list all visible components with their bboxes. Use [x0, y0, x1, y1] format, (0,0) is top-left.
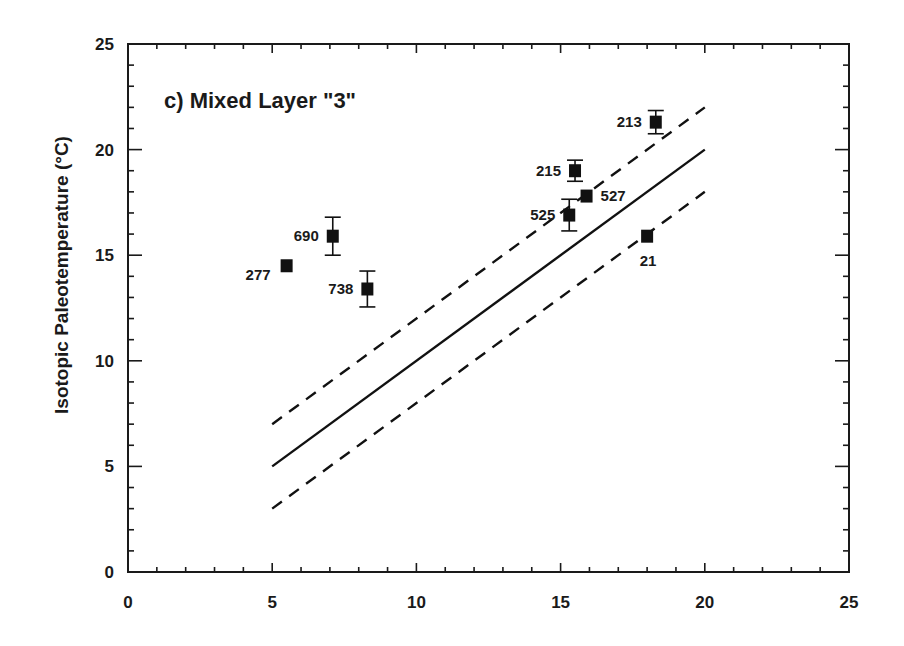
y-tick-label: 20 [95, 141, 114, 160]
y-tick-label: 10 [95, 352, 114, 371]
x-tick-label: 20 [695, 593, 714, 612]
square-marker [641, 230, 653, 243]
y-tick-label: 0 [105, 563, 114, 582]
one-to-one-line [272, 150, 705, 467]
y-axis-title: Isotopic Paleotemperature (°C) [51, 136, 72, 414]
data-point-738: 738 [328, 271, 375, 307]
x-tick-label: 0 [123, 593, 132, 612]
square-marker [569, 164, 581, 177]
data-point-21: 21 [640, 230, 657, 269]
data-point-215: 215 [536, 160, 583, 181]
data-point-277: 277 [246, 259, 293, 283]
data-point-213: 213 [617, 111, 664, 134]
x-tick-label: 15 [551, 593, 570, 612]
square-marker [650, 116, 662, 129]
data-point-690: 690 [294, 217, 341, 255]
point-label: 525 [530, 206, 555, 223]
x-tick-label: 5 [267, 593, 276, 612]
data-point-527: 527 [581, 187, 626, 204]
square-marker [281, 259, 293, 272]
point-label: 738 [328, 280, 353, 297]
point-label: 21 [640, 252, 657, 269]
x-tick-label: 25 [840, 593, 859, 612]
point-label: 215 [536, 162, 561, 179]
point-label: 690 [294, 227, 319, 244]
y-tick-label: 25 [95, 35, 114, 54]
x-tick-label: 10 [407, 593, 426, 612]
reference-lines [272, 107, 705, 508]
point-label: 277 [246, 266, 271, 283]
panel-title: c) Mixed Layer "3" [164, 88, 356, 113]
square-marker [361, 282, 373, 295]
square-marker [581, 190, 593, 203]
square-marker [327, 230, 339, 243]
square-marker [563, 209, 575, 222]
scatter-chart: 27769073821552752521321 0510152025051015… [0, 0, 904, 646]
y-tick-label: 15 [95, 246, 114, 265]
data-point-525: 525 [530, 199, 577, 231]
point-label: 527 [601, 187, 626, 204]
y-tick-label: 5 [105, 457, 114, 476]
data-points: 27769073821552752521321 [246, 111, 664, 307]
axes: 05101520250510152025 [95, 35, 858, 612]
point-label: 213 [617, 113, 642, 130]
